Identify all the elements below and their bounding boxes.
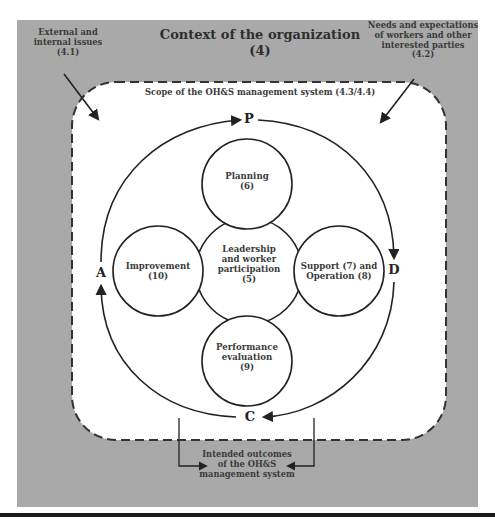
planning-label: Planning (6) (207, 171, 287, 191)
pdca-c: C (240, 409, 260, 424)
external-issues-label: External and internal issues (4.1) (20, 28, 116, 57)
pdca-a: A (91, 265, 111, 280)
title-ref: (4) (140, 43, 380, 59)
pdca-p: P (239, 111, 259, 126)
diagram-title: Context of the organization (4) (140, 27, 380, 58)
support-operation-label: Support (7) and Operation (8) (294, 261, 384, 281)
needs-expectations-label: Needs and expectations of workers and ot… (362, 21, 484, 60)
leadership-label: Leadership and worker participation (5) (199, 244, 299, 285)
title-text: Context of the organization (140, 27, 380, 43)
intended-outcomes-label: Intended outcomes of the OH&S management… (187, 450, 307, 479)
improvement-label: Improvement (10) (113, 261, 203, 281)
pdca-diagram: Context of the organization (4) External… (0, 0, 495, 526)
pdca-d: D (384, 262, 404, 277)
bottom-rule (0, 513, 495, 517)
performance-label: Performance evaluation (9) (202, 342, 292, 372)
scope-label: Scope of the OH&S management system (4.3… (120, 88, 400, 98)
